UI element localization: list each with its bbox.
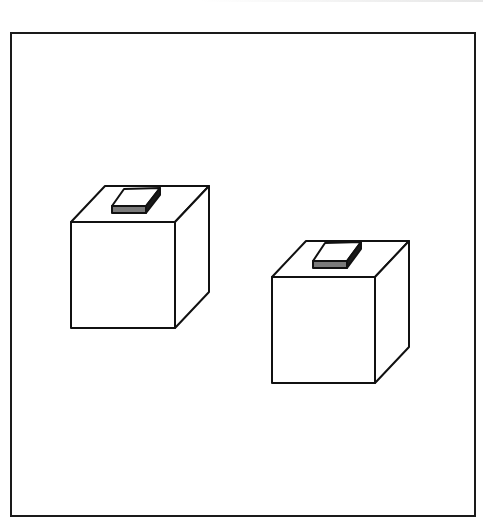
knob-front (313, 261, 347, 268)
cube-front-face (71, 222, 175, 328)
cube-right (272, 241, 409, 383)
diagram-canvas (0, 0, 483, 520)
cube-left (71, 186, 209, 328)
knob-front (112, 206, 146, 213)
cube-front-face (272, 277, 375, 383)
